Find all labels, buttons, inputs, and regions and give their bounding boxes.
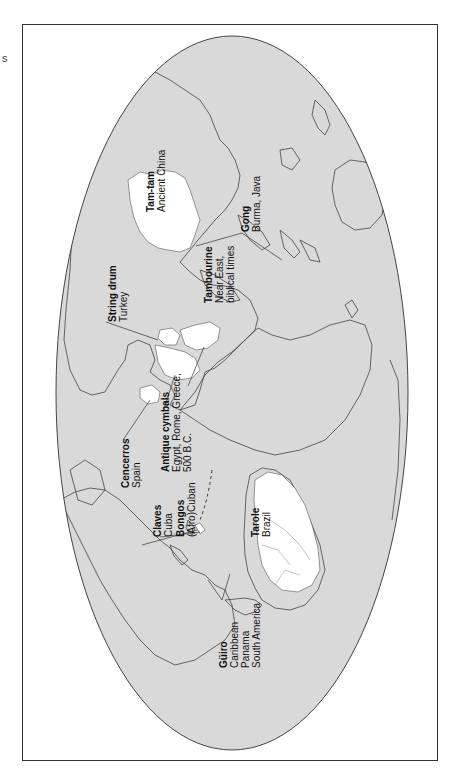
- label-bongos: Bongos (Afro)Cuban: [175, 483, 197, 537]
- label-claves: Claves Cuba: [152, 505, 174, 537]
- label-guiro: Güiro Caribbean Panama South America: [218, 603, 262, 668]
- label-tarole: Tarole Brazil: [250, 508, 272, 537]
- label-gong: Gong Burma, Java: [240, 176, 262, 232]
- label-tam-tam: Tam-tam Ancient China: [145, 150, 167, 212]
- label-antique-cymbals: Antique cymbals Egypt, Rome, Greece, 500…: [160, 373, 193, 472]
- label-cencerros: Cencerros Spain: [120, 439, 142, 488]
- label-string-drum: String drum Turkey: [107, 265, 129, 322]
- label-tambourine: Tambourine Near East, biblical times: [203, 246, 236, 303]
